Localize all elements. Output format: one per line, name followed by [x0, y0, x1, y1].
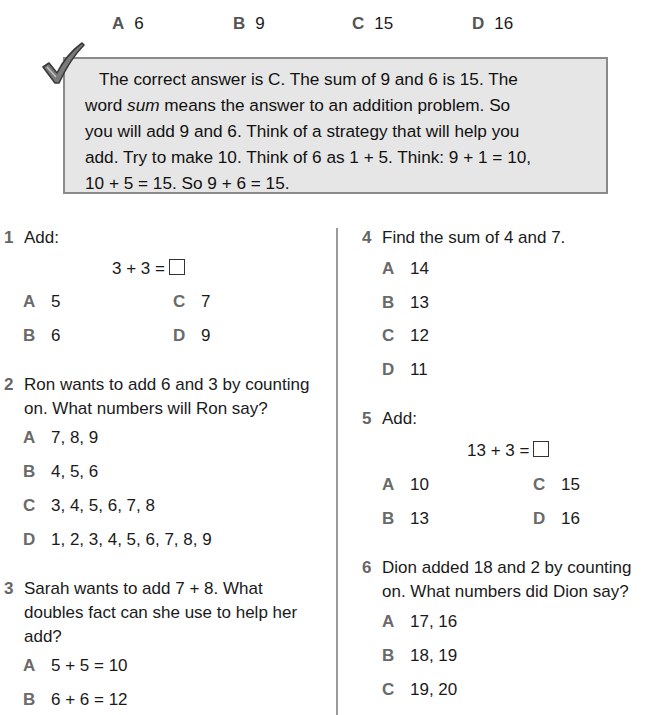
- example-choice-b[interactable]: B9: [233, 14, 265, 34]
- question-1-equation: 3 + 3 =: [112, 259, 185, 279]
- q6-option-c[interactable]: C19, 20: [382, 680, 457, 700]
- explanation-box: The correct answer is C. The sum of 9 an…: [63, 57, 608, 194]
- q2-option-d[interactable]: D1, 2, 3, 4, 5, 6, 7, 8, 9: [23, 530, 212, 550]
- question-4: 4 Find the sum of 4 and 7.: [362, 226, 647, 250]
- q4-option-c[interactable]: C12: [382, 326, 429, 346]
- example-choice-c[interactable]: C15: [352, 14, 393, 34]
- question-3: 3 Sarah wants to add 7 + 8. What doubles…: [4, 577, 334, 649]
- example-choices: A6 B9 C15 D16: [0, 14, 651, 40]
- example-choice-d[interactable]: D16: [472, 14, 513, 34]
- answer-blank-box[interactable]: [533, 441, 549, 457]
- q5-option-b[interactable]: B13: [382, 509, 429, 529]
- example-choice-a[interactable]: A6: [112, 14, 144, 34]
- column-divider: [336, 228, 338, 715]
- q6-option-b[interactable]: B18, 19: [382, 646, 457, 666]
- answer-blank-box[interactable]: [169, 259, 185, 275]
- question-5: 5 Add:: [362, 407, 647, 431]
- q5-option-a[interactable]: A10: [382, 475, 429, 495]
- q2-option-b[interactable]: B4, 5, 6: [23, 462, 98, 482]
- explanation-text: The correct answer is C. The sum of 9 an…: [85, 66, 605, 196]
- q4-option-a[interactable]: A14: [382, 259, 429, 279]
- q1-option-b[interactable]: B6: [23, 326, 60, 346]
- checkmark-icon: [40, 41, 86, 85]
- q3-option-a[interactable]: A5 + 5 = 10: [23, 656, 128, 676]
- q1-option-c[interactable]: C7: [173, 292, 210, 312]
- q2-option-c[interactable]: C3, 4, 5, 6, 7, 8: [23, 496, 155, 516]
- q5-option-d[interactable]: D16: [533, 509, 580, 529]
- q5-option-c[interactable]: C15: [533, 475, 580, 495]
- q6-option-a[interactable]: A17, 16: [382, 612, 457, 632]
- question-5-equation: 13 + 3 =: [467, 441, 549, 461]
- q1-option-a[interactable]: A5: [23, 292, 60, 312]
- question-2: 2 Ron wants to add 6 and 3 by counting o…: [4, 373, 334, 421]
- question-1: 1 Add:: [4, 226, 324, 250]
- q2-option-a[interactable]: A7, 8, 9: [23, 428, 98, 448]
- question-6: 6 Dion added 18 and 2 by counting on. Wh…: [362, 556, 651, 604]
- q3-option-b[interactable]: B6 + 6 = 12: [23, 690, 128, 710]
- q4-option-b[interactable]: B13: [382, 293, 429, 313]
- q1-option-d[interactable]: D9: [173, 326, 210, 346]
- q4-option-d[interactable]: D11: [382, 360, 428, 380]
